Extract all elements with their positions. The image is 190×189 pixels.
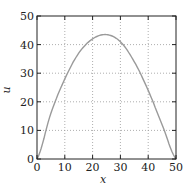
x-tick-label: 50 [169,161,183,174]
y-tick-label: 0 [27,153,34,166]
y-tick-label: 50 [20,10,34,23]
ticks [37,16,176,159]
y-tick-label: 20 [20,96,34,109]
y-tick-labels: 01020304050 [20,10,34,166]
x-tick-label: 40 [141,161,155,174]
x-tick-label: 0 [34,161,41,174]
x-axis-label: x [100,173,107,186]
y-axis-label: u [0,86,13,93]
y-tick-label: 40 [20,39,34,52]
plot-frame [37,16,176,159]
y-tick-label: 10 [20,124,34,137]
y-tick-label: 30 [20,67,34,80]
data-line [37,35,176,160]
x-tick-labels: 01020304050 [34,161,184,174]
x-tick-label: 20 [86,161,100,174]
x-tick-label: 10 [58,161,72,174]
x-tick-label: 30 [113,161,127,174]
grid [37,16,176,159]
chart: 01020304050 01020304050 x u [0,0,190,189]
